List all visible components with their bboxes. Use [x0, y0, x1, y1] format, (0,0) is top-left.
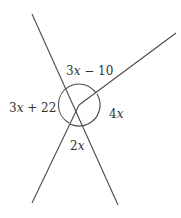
angle-label-bottom: 2x: [70, 139, 85, 153]
arc-right-angle: [88, 94, 100, 124]
angle-diagram: 3x − 10 3x + 22 4x 2x: [0, 0, 181, 218]
line-center-to-lower-left: [32, 105, 79, 203]
angle-label-left: 3x + 22: [9, 101, 56, 115]
angle-label-top: 3x − 10: [66, 64, 113, 78]
angle-label-right: 4x: [109, 107, 124, 121]
arc-top-angle: [70, 84, 96, 93]
arc-bottom-angle: [70, 124, 88, 126]
arc-left-angle: [58, 86, 70, 123]
